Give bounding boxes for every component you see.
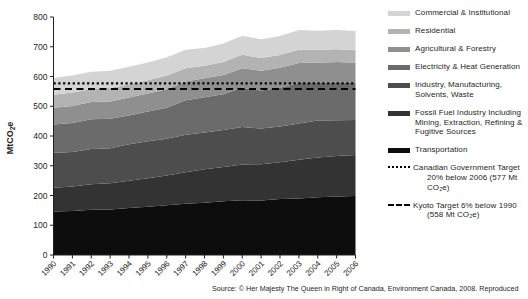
legend-swatch-electricity-heat xyxy=(388,65,410,70)
x-tick-label: 2005 xyxy=(323,259,342,278)
legend-label-canadian-government-target: Canadian Government Target 20% below 200… xyxy=(413,163,528,192)
legend-label-line-1: Canadian Government Target xyxy=(413,163,528,173)
legend-label-line-1: Industry, Manufacturing, xyxy=(415,80,502,90)
legend-swatch-fossil-fuel-industry xyxy=(388,111,410,116)
legend-swatch-agricultural-forestry xyxy=(388,47,410,52)
y-tick-label: 300 xyxy=(33,161,47,171)
legend-item-industry-manufacturing: Industry, Manufacturing, Solvents, Waste xyxy=(388,80,528,99)
legend-label-line-2: 20% below 2006 (577 Mt CO₂e) xyxy=(413,173,528,192)
y-tick-label: 0 xyxy=(43,250,48,260)
legend-label-commercial-institutional: Commercial & Institutional xyxy=(415,8,510,18)
legend-item-transportation: Transportation xyxy=(388,145,528,155)
chart-plot-area: 0100200300400500600700800MtCO2e199019911… xyxy=(0,0,360,299)
legend-item-agricultural-forestry: Agricultural & Forestry xyxy=(388,44,528,54)
x-tick-label: 2002 xyxy=(266,259,285,278)
x-tick-label: 1998 xyxy=(190,259,209,278)
figure-emissions-stacked-area: 0100200300400500600700800MtCO2e199019911… xyxy=(0,0,528,299)
y-tick-label: 200 xyxy=(33,191,47,201)
x-tick-label: 1990 xyxy=(39,259,58,278)
legend-label-agricultural-forestry: Agricultural & Forestry xyxy=(415,44,496,54)
y-tick-label: 600 xyxy=(33,72,47,82)
legend-swatch-dashed-line xyxy=(388,204,410,209)
legend-item-canadian-government-target: Canadian Government Target 20% below 200… xyxy=(388,163,528,192)
legend-swatch-industry-manufacturing xyxy=(388,83,410,88)
legend-swatch-residential xyxy=(388,29,410,34)
legend-label-residential: Residential xyxy=(415,26,455,36)
y-tick-label: 700 xyxy=(33,42,47,52)
legend-label-kyoto-target: Kyoto Target 6% below 1990 (558 Mt CO₂e) xyxy=(413,201,517,220)
legend-label-industry-manufacturing: Industry, Manufacturing, Solvents, Waste xyxy=(415,80,502,99)
x-tick-label: 2006 xyxy=(341,259,360,278)
x-tick-label: 2000 xyxy=(228,259,247,278)
x-tick-label: 1999 xyxy=(209,259,228,278)
legend-label-line-3: Fugitive Sources xyxy=(415,127,522,137)
x-tick-label: 1991 xyxy=(58,259,77,278)
legend-label-line-2: Solvents, Waste xyxy=(415,90,502,100)
legend-item-kyoto-target: Kyoto Target 6% below 1990 (558 Mt CO₂e) xyxy=(388,201,528,220)
source-note: Source: © Her Majesty The Queen in Right… xyxy=(212,284,528,293)
x-tick-label: 1996 xyxy=(153,259,172,278)
legend-label-line-2: (558 Mt CO₂e) xyxy=(413,210,517,220)
y-tick-label: 100 xyxy=(33,220,47,230)
legend-swatch-commercial-institutional xyxy=(388,11,410,16)
y-tick-label: 500 xyxy=(33,101,47,111)
legend-item-fossil-fuel-industry: Fossil Fuel Industry Including Mining, E… xyxy=(388,108,528,137)
y-tick-label: 400 xyxy=(33,131,47,141)
stacked-area-chart: 0100200300400500600700800MtCO2e199019911… xyxy=(0,0,360,299)
legend-label-line-2: Mining, Extraction, Refining & xyxy=(415,118,522,128)
legend-item-commercial-institutional: Commercial & Institutional xyxy=(388,8,528,18)
x-tick-label: 1995 xyxy=(134,259,153,278)
y-tick-label: 800 xyxy=(33,12,47,22)
x-tick-label: 2003 xyxy=(285,259,304,278)
x-tick-label: 2001 xyxy=(247,259,266,278)
x-tick-label: 1997 xyxy=(172,259,191,278)
legend-label-electricity-heat: Electricity & Heat Generation xyxy=(415,62,520,72)
legend-label-line-1: Kyoto Target 6% below 1990 xyxy=(413,201,517,211)
x-tick-label: 1992 xyxy=(77,259,96,278)
legend-item-electricity-heat: Electricity & Heat Generation xyxy=(388,62,528,72)
x-tick-label: 1994 xyxy=(115,259,134,278)
legend-label-line-1: Fossil Fuel Industry Including xyxy=(415,108,522,118)
x-tick-label: 2004 xyxy=(304,259,323,278)
legend-item-residential: Residential xyxy=(388,26,528,36)
legend-swatch-transportation xyxy=(388,148,410,153)
legend-swatch-dotted-line xyxy=(388,166,410,171)
x-tick-label: 1993 xyxy=(96,259,115,278)
legend-label-transportation: Transportation xyxy=(415,145,467,155)
chart-legend: Commercial & Institutional Residential A… xyxy=(388,8,528,228)
y-axis-title: MtCO2e xyxy=(5,122,16,155)
legend-label-fossil-fuel-industry: Fossil Fuel Industry Including Mining, E… xyxy=(415,108,522,137)
